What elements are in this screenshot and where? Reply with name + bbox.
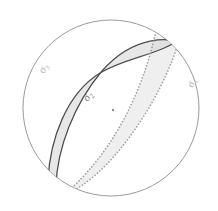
stereonet-canvas: σ3 σ2 σ1 bbox=[0, 0, 218, 211]
center-point bbox=[112, 109, 114, 111]
stereonet-figure: σ3 σ2 σ1 bbox=[0, 0, 218, 211]
